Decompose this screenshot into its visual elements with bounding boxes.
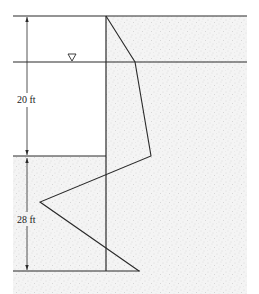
sheet-pile-diagram: 20 ft 28 ft <box>0 0 259 294</box>
arrow-up-icon <box>25 17 28 22</box>
upper-dimension-label: 20 ft <box>17 94 36 105</box>
water-table-icon <box>68 54 76 61</box>
retained-soil-right <box>106 16 247 294</box>
lower-dimension-label: 28 ft <box>17 214 36 225</box>
arrow-down-icon <box>25 150 28 155</box>
